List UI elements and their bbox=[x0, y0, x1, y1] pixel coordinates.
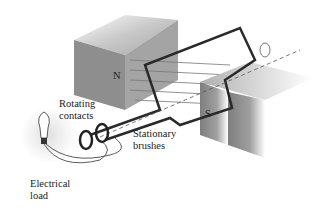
label-line: load bbox=[30, 190, 70, 202]
north-magnet bbox=[74, 15, 178, 110]
stationary-brushes-label: Stationary brushes bbox=[133, 128, 176, 152]
generator-diagram bbox=[0, 0, 313, 208]
label-line: brushes bbox=[133, 140, 176, 152]
electrical-load-label: Electrical load bbox=[30, 178, 70, 202]
north-pole-label: N bbox=[113, 70, 121, 82]
south-pole-label: S bbox=[205, 108, 211, 120]
south-magnet bbox=[200, 62, 313, 158]
rotation-arrow-icon bbox=[260, 43, 270, 57]
rotating-contacts-label: Rotating contacts bbox=[59, 98, 95, 122]
label-line: Stationary bbox=[133, 128, 176, 140]
label-line: contacts bbox=[59, 110, 95, 122]
label-line: Rotating bbox=[59, 98, 95, 110]
label-line: Electrical bbox=[30, 178, 70, 190]
slip-ring-1 bbox=[80, 131, 92, 149]
